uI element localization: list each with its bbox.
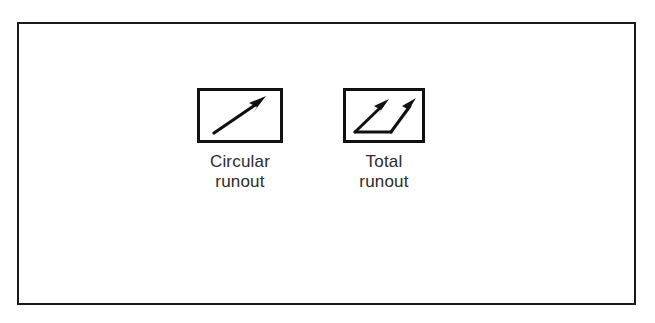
total-runout-symbol-icon — [343, 88, 425, 143]
symbol-row: Circular runout — [19, 24, 638, 307]
symbol-group-circular-runout: Circular runout — [185, 88, 295, 192]
figure-border-frame: Circular runout — [17, 22, 636, 305]
symbol-group-total-runout: Total runout — [329, 88, 439, 192]
symbol-caption-total-runout: Total runout — [329, 152, 439, 192]
circular-runout-arrow-graphic — [200, 91, 280, 140]
symbol-caption-circular-runout: Circular runout — [185, 152, 295, 192]
total-runout-arrows-graphic — [346, 91, 422, 140]
figure-root: Circular runout — [0, 0, 655, 323]
circular-runout-symbol-icon — [197, 88, 283, 143]
